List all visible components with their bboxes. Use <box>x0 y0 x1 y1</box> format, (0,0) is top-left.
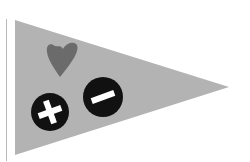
zoom-out-button[interactable] <box>83 77 123 117</box>
pennant-flag <box>0 0 250 162</box>
pennant-body <box>15 20 229 155</box>
zoom-in-button[interactable] <box>31 93 69 131</box>
